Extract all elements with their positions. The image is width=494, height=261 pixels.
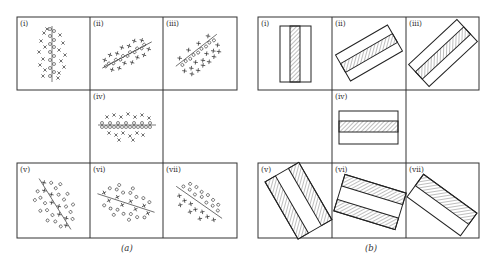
cell-label: (vii) — [166, 165, 181, 174]
shape-cell-vi — [334, 174, 406, 229]
panel-a-caption: (a) — [121, 243, 133, 253]
shape-cell-i — [280, 26, 311, 82]
panel-b: (i) (ii) (iii) (iv) (v) (vi) (vii) — [258, 17, 479, 253]
shape-cell-iii — [409, 20, 478, 87]
scatter-cell-iii — [172, 29, 228, 81]
cell-label: (vii) — [409, 165, 424, 174]
cell-label: (v) — [20, 165, 30, 174]
cell-label: (v) — [261, 165, 271, 174]
cell-label: (vi) — [335, 165, 348, 174]
scatter-cell-i — [37, 26, 66, 82]
scatter-cell-v — [24, 169, 85, 238]
panel-a: (i) (ii) (iii) (iv) (v) (vi) (vii) — [17, 17, 237, 253]
cell-label: (i) — [261, 19, 269, 28]
shape-cell-v — [265, 162, 332, 239]
scatter-cell-ii — [97, 32, 156, 77]
cell-label: (ii) — [93, 19, 104, 28]
figure-canvas: (i) (ii) (iii) (iv) (v) (vi) (vii) — [0, 0, 494, 261]
scatter-cell-vii — [168, 176, 229, 230]
shape-cell-iv — [339, 111, 398, 144]
shape-cell-vii — [407, 174, 477, 235]
cell-label: (iii) — [166, 19, 179, 28]
cell-label: (i) — [20, 19, 28, 28]
cell-label: (ii) — [335, 19, 346, 28]
cell-label: (iii) — [409, 19, 422, 28]
scatter-cell-iv — [98, 112, 156, 141]
panel-b-caption: (b) — [365, 243, 377, 253]
cell-label: (iv) — [335, 92, 348, 101]
cell-label: (vi) — [93, 165, 106, 174]
cell-label: (iv) — [93, 92, 106, 101]
panel-a-row3-frame — [17, 163, 237, 238]
scatter-cell-vi — [92, 177, 160, 228]
shape-cell-ii — [336, 25, 403, 81]
